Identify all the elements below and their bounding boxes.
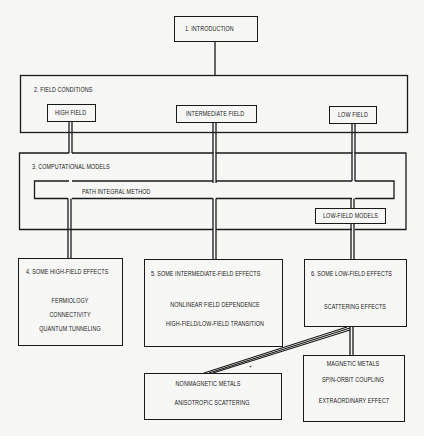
magnetic-item: SPIN-ORBIT COUPLING: [322, 376, 384, 384]
nonmagnetic-item: NONMAGNETIC METALS: [176, 380, 241, 388]
plus-marker: +: [249, 362, 252, 370]
intermediate-field-label: INTERMEDIATE FIELD: [186, 110, 244, 118]
intermediate-field-item: NONLINEAR FIELD DEPENDENCE: [170, 301, 260, 309]
high-field-label: HIGH FIELD: [55, 109, 86, 117]
introduction-label: 1. INTRODUCTION: [185, 25, 234, 33]
computational-models-label: 3. COMPUTATIONAL MODELS: [32, 163, 110, 171]
low-field-models-label: LOW-FIELD MODELS: [323, 212, 378, 220]
high-field-item: CONNECTIVITY: [49, 311, 90, 319]
high-field-item: QUANTUM TUNNELING: [39, 325, 100, 333]
low-field-effects-title: 6. SOME LOW-FIELD EFFECTS: [311, 270, 392, 278]
low-field-label: LOW FIELD: [338, 111, 368, 119]
high-field-effects-title: 4. SOME HIGH-FIELD EFFECTS: [26, 268, 108, 276]
nonmagnetic-item: ANISOTROPIC SCATTERING: [174, 399, 249, 407]
high-field-item: FERMIOLOGY: [52, 297, 89, 305]
intermediate-field-item: HIGH-FIELD/LOW-FIELD TRANSITION: [166, 320, 264, 328]
magnetic-item: MAGNETIC METALS: [327, 360, 380, 368]
field-conditions-label: 2. FIELD CONDITIONS: [34, 86, 92, 94]
low-field-item: SCATTERING EFFECTS: [324, 303, 386, 311]
intermediate-field-effects-title: 5. SOME INTERMEDIATE-FIELD EFFECTS: [151, 270, 260, 278]
magnetic-item: EXTRAORDINARY EFFECT: [319, 397, 390, 405]
flowchart-canvas: 1. INTRODUCTION 2. FIELD CONDITIONS HIGH…: [0, 0, 424, 436]
path-integral-label: PATH INTEGRAL METHOD: [82, 188, 151, 196]
